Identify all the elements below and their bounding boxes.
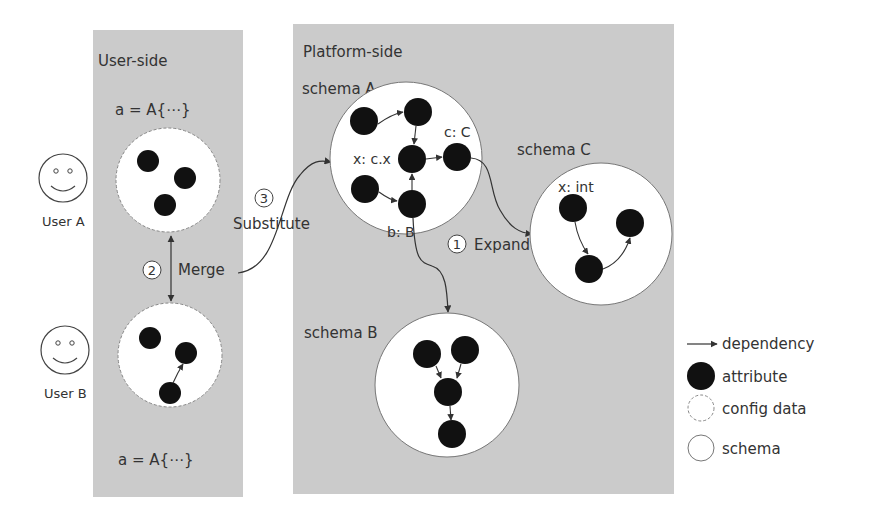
user-side-title: User-side (98, 52, 167, 70)
schema-c-title: schema C (517, 141, 591, 159)
step-2-number: 2 (148, 263, 156, 278)
step-3-number: 3 (260, 191, 268, 206)
attribute (350, 107, 378, 135)
user-a-config-label: a = A{⋯} (115, 101, 191, 119)
attr-b-label: b: B (387, 224, 415, 240)
step-2-label: Merge (178, 261, 225, 279)
legend: dependency attribute config data schema (687, 335, 815, 461)
attribute (137, 150, 159, 172)
legend-config-data: config data (722, 400, 806, 418)
step-3-label: Substitute (233, 215, 310, 233)
attribute (154, 194, 176, 216)
attribute (175, 342, 197, 364)
attribute-x (398, 145, 426, 173)
legend-schema: schema (722, 440, 781, 458)
schema-c (530, 163, 672, 305)
user-b-label: User B (44, 386, 87, 401)
attr-c-label: c: C (444, 124, 471, 140)
attribute-b (398, 190, 426, 218)
step-1-label: Expand (474, 236, 530, 254)
schema-b-title: schema B (304, 324, 378, 342)
user-a-avatar (39, 154, 87, 202)
dashed-circle-icon (688, 395, 714, 421)
platform-side-title: Platform-side (303, 43, 402, 61)
step-1-number: 1 (453, 237, 461, 252)
attribute (139, 327, 161, 349)
attr-x-int-label: x: int (558, 179, 594, 195)
outline-circle-icon (688, 435, 714, 461)
filled-circle-icon (687, 362, 715, 390)
user-a-label: User A (42, 214, 85, 229)
user-b-config-label: a = A{⋯} (118, 451, 194, 469)
attribute (434, 378, 462, 406)
attribute (174, 167, 196, 189)
attribute (575, 255, 603, 283)
attribute (413, 340, 441, 368)
attribute (616, 209, 644, 237)
smiley-icon (39, 154, 87, 202)
attribute (438, 420, 466, 448)
legend-attribute: attribute (722, 368, 787, 386)
attribute (159, 382, 181, 404)
user-b-avatar (41, 326, 89, 374)
attribute (451, 336, 479, 364)
diagram-canvas: User-side Platform-side User A User B a … (0, 0, 871, 520)
attribute (404, 98, 432, 126)
attribute (351, 175, 379, 203)
attr-x-label: x: c.x (353, 151, 391, 167)
user-a-config-data (116, 128, 220, 232)
attribute-x (559, 194, 587, 222)
smiley-icon (41, 326, 89, 374)
attribute-c (443, 143, 471, 171)
legend-dependency: dependency (722, 335, 815, 353)
